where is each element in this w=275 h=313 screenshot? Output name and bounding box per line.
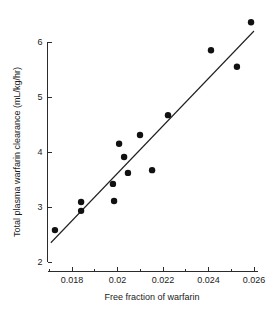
y-axis: 23456 Total plasma warfarin clearance (m… [12, 37, 52, 267]
x-tick-label: 0.02 [109, 275, 127, 285]
y-axis-title: Total plasma warfarin clearance (mL/kg/h… [12, 67, 22, 237]
x-axis: 0.0180.020.0220.0240.026 Free fraction o… [48, 267, 266, 302]
x-tick-label: 0.022 [152, 275, 175, 285]
plot-canvas: 23456 Total plasma warfarin clearance (m… [0, 0, 275, 313]
data-point [116, 141, 122, 147]
data-point [121, 154, 127, 160]
y-tick-label-group: 23456 [37, 37, 42, 267]
x-tick-label: 0.018 [61, 275, 84, 285]
y-tick-label: 5 [37, 92, 42, 102]
x-tick-label: 0.026 [243, 275, 266, 285]
data-point [149, 167, 155, 173]
y-tick-label: 3 [37, 202, 42, 212]
x-tick-label: 0.024 [197, 275, 220, 285]
data-point [137, 132, 143, 138]
y-tick-label: 4 [37, 147, 42, 157]
y-tick-label: 6 [37, 37, 42, 47]
data-point [78, 199, 84, 205]
scatter-plot-figure: 23456 Total plasma warfarin clearance (m… [0, 0, 275, 313]
x-tick-label-group: 0.0180.020.0220.0240.026 [61, 275, 266, 285]
x-axis-title: Free fraction of warfarin [104, 292, 199, 302]
data-point [234, 64, 240, 70]
x-tick-group [49, 267, 254, 272]
data-point [125, 170, 131, 176]
data-point [208, 47, 214, 53]
data-point [165, 112, 171, 118]
y-tick-group [48, 42, 53, 262]
data-point [248, 19, 254, 25]
data-point [111, 198, 117, 204]
y-tick-label: 2 [37, 257, 42, 267]
data-point [52, 227, 58, 233]
data-point-group [52, 19, 255, 233]
data-point [78, 208, 84, 214]
data-point [110, 181, 116, 187]
